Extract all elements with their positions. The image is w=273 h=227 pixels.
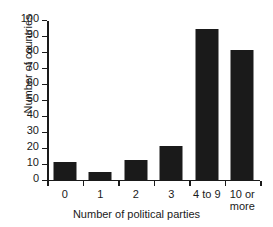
y-axis-tick-label: 70 bbox=[11, 61, 39, 72]
x-axis-tick bbox=[83, 181, 85, 186]
bar-slot bbox=[189, 20, 225, 180]
bar bbox=[160, 146, 183, 180]
bar-slot bbox=[154, 20, 190, 180]
bar-slot bbox=[83, 20, 119, 180]
bar bbox=[53, 162, 76, 180]
x-axis-tick-label: 4 to 9 bbox=[189, 188, 225, 200]
bar bbox=[89, 172, 112, 180]
y-axis-tick-label: 90 bbox=[11, 29, 39, 40]
x-axis-tick-label: 0 bbox=[47, 188, 83, 200]
x-axis-tick-label: 2 bbox=[118, 188, 154, 200]
y-axis-tick-label: 60 bbox=[11, 77, 39, 88]
bars-layer bbox=[47, 20, 260, 180]
x-axis-tick bbox=[189, 181, 191, 186]
bar bbox=[195, 29, 218, 179]
y-axis-tick-label: 30 bbox=[11, 125, 39, 136]
x-axis-title: Number of political parties bbox=[0, 208, 273, 220]
y-axis-tick-label: 40 bbox=[11, 109, 39, 120]
x-axis-tick bbox=[154, 181, 156, 186]
x-axis-tick bbox=[47, 181, 49, 186]
y-axis-tick-label: 10 bbox=[11, 157, 39, 168]
y-axis-tick-label: 20 bbox=[11, 141, 39, 152]
y-axis-tick-label: 80 bbox=[11, 45, 39, 56]
bar-slot bbox=[225, 20, 261, 180]
bar bbox=[231, 50, 254, 180]
x-axis-tick-label: 3 bbox=[154, 188, 190, 200]
y-axis-tick-label: 50 bbox=[11, 93, 39, 104]
y-axis-tick-label: 100 bbox=[11, 13, 39, 24]
bar-slot bbox=[118, 20, 154, 180]
bar bbox=[124, 160, 147, 179]
x-axis-tick bbox=[225, 181, 227, 186]
plot-area: 0102030405060708090100 bbox=[47, 21, 260, 181]
bar-slot bbox=[47, 20, 83, 180]
x-axis-tick-label: 1 bbox=[83, 188, 119, 200]
x-axis-tick bbox=[260, 181, 262, 186]
y-axis-tick-label: 0 bbox=[11, 173, 39, 184]
x-axis-tick bbox=[118, 181, 120, 186]
bar-chart: Number of countries 01020304050607080901… bbox=[0, 0, 273, 227]
